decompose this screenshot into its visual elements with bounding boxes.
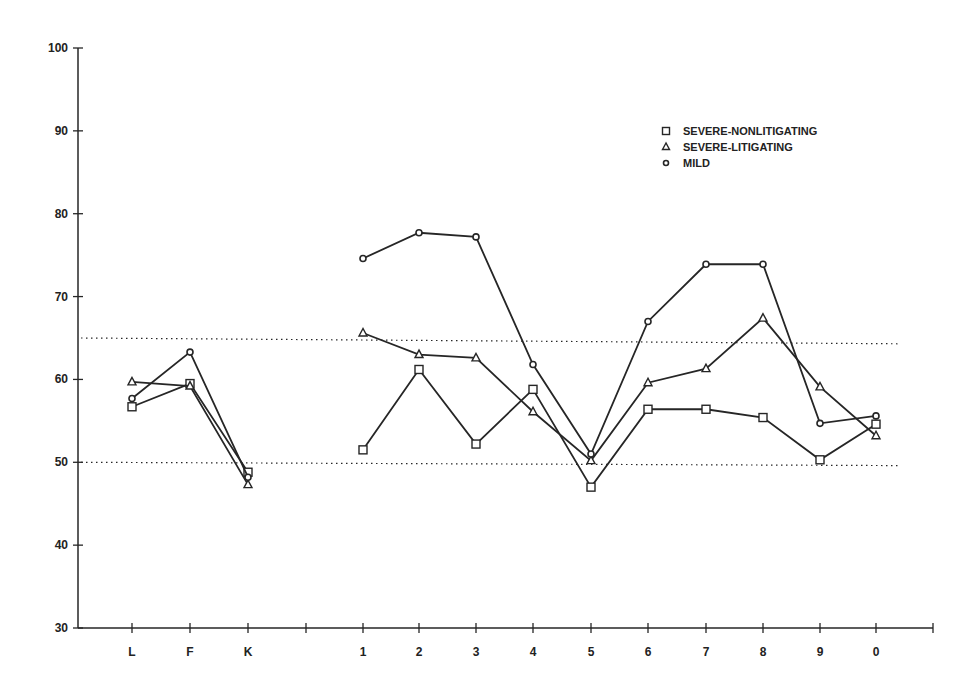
upper-reference-line <box>81 338 900 344</box>
x-tick-label: 2 <box>416 645 423 659</box>
diamond-marker-icon <box>530 362 536 368</box>
square-marker-icon <box>128 403 136 411</box>
series-mild <box>129 230 879 480</box>
triangle-marker-icon <box>663 143 670 150</box>
lower-reference-line <box>81 462 900 465</box>
legend-item-triangle: SEVERE-LITIGATING <box>663 141 793 153</box>
y-tick-label: 80 <box>55 207 69 221</box>
square-marker-icon <box>759 414 767 422</box>
square-marker-icon <box>702 405 710 413</box>
legend-label: MILD <box>683 157 710 169</box>
diamond-marker-icon <box>245 474 251 480</box>
diamond-marker-icon <box>703 261 709 267</box>
series-line <box>132 382 248 485</box>
diamond-marker-icon <box>760 261 766 267</box>
triangle-marker-icon <box>128 377 136 385</box>
diamond-marker-icon <box>129 395 135 401</box>
series-line <box>132 352 248 477</box>
diamond-marker-icon <box>187 349 193 355</box>
x-tick-label: 0 <box>873 645 880 659</box>
diamond-marker-icon <box>473 234 479 240</box>
legend-item-square: SEVERE-NONLITIGATING <box>663 125 818 137</box>
triangle-marker-icon <box>359 329 367 337</box>
diamond-marker-icon <box>416 230 422 236</box>
series-line <box>132 384 248 473</box>
square-marker-icon <box>663 128 670 135</box>
square-marker-icon <box>644 405 652 413</box>
triangle-marker-icon <box>759 314 767 322</box>
diamond-marker-icon <box>873 413 879 419</box>
square-marker-icon <box>816 456 824 464</box>
series-layer <box>128 230 880 491</box>
square-marker-icon <box>872 420 880 428</box>
square-marker-icon <box>472 440 480 448</box>
y-tick-label: 40 <box>55 538 69 552</box>
diamond-marker-icon <box>588 451 594 457</box>
x-tick-label: 6 <box>645 645 652 659</box>
chart-canvas: 30405060708090100LFK1234567890 SEVERE-NO… <box>0 0 973 692</box>
x-tick-label: 3 <box>473 645 480 659</box>
legend-label: SEVERE-NONLITIGATING <box>683 125 817 137</box>
x-tick-label: 8 <box>760 645 767 659</box>
square-marker-icon <box>587 483 595 491</box>
x-tick-label: 9 <box>817 645 824 659</box>
reference-lines <box>81 338 900 466</box>
legend-label: SEVERE-LITIGATING <box>683 141 793 153</box>
mmpi-profile-line-chart: 30405060708090100LFK1234567890 SEVERE-NO… <box>0 0 973 692</box>
diamond-marker-icon <box>664 161 669 166</box>
diamond-marker-icon <box>645 318 651 324</box>
x-tick-label: 5 <box>588 645 595 659</box>
y-tick-label: 90 <box>55 124 69 138</box>
square-marker-icon <box>359 446 367 454</box>
x-tick-label: F <box>186 645 193 659</box>
x-tick-label: 1 <box>360 645 367 659</box>
x-tick-label: L <box>128 645 135 659</box>
x-tick-label: 7 <box>703 645 710 659</box>
square-marker-icon <box>529 385 537 393</box>
diamond-marker-icon <box>817 420 823 426</box>
x-tick-label: K <box>244 645 253 659</box>
diamond-marker-icon <box>360 255 366 261</box>
square-marker-icon <box>415 365 423 373</box>
x-tick-label: 4 <box>530 645 537 659</box>
y-tick-label: 30 <box>55 621 69 635</box>
y-tick-label: 100 <box>48 41 68 55</box>
y-tick-label: 50 <box>55 455 69 469</box>
y-tick-label: 60 <box>55 372 69 386</box>
legend-item-diamond: MILD <box>664 157 710 169</box>
y-tick-label: 70 <box>55 290 69 304</box>
legend: SEVERE-NONLITIGATINGSEVERE-LITIGATINGMIL… <box>663 125 818 169</box>
